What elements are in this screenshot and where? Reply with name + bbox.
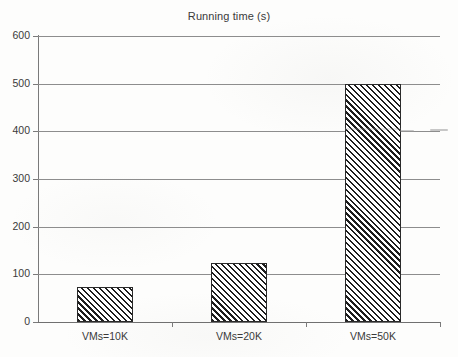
bar-chart-figure: Running time (s) 0100200300400500600 VMs…	[0, 0, 458, 357]
x-tick-mark-0	[172, 322, 173, 327]
bar-VMs=50K	[345, 84, 401, 322]
y-tick-label-100: 100	[2, 267, 30, 279]
plot-area	[38, 36, 440, 322]
gridline-600	[38, 36, 440, 37]
chart-title: Running time (s)	[0, 10, 458, 22]
y-tick-label-200: 200	[2, 220, 30, 232]
x-tick-mark-2	[440, 322, 441, 327]
x-tick-mark-1	[306, 322, 307, 327]
y-tick-label-400: 400	[2, 124, 30, 136]
y-tick-label-0: 0	[2, 315, 30, 327]
y-tick-label-300: 300	[2, 172, 30, 184]
y-tick-label-600: 600	[2, 29, 30, 41]
bar-VMs=10K	[77, 287, 133, 322]
x-tick-label-VMs=10K: VMs=10K	[55, 330, 155, 342]
y-tick-label-500: 500	[2, 77, 30, 89]
y-axis-tick-labels: 0100200300400500600	[0, 36, 30, 322]
x-tick-label-VMs=50K: VMs=50K	[323, 330, 423, 342]
x-axis: VMs=10KVMs=20KVMs=50K	[38, 322, 440, 357]
x-tick-label-VMs=20K: VMs=20K	[189, 330, 289, 342]
bar-VMs=20K	[211, 263, 267, 322]
